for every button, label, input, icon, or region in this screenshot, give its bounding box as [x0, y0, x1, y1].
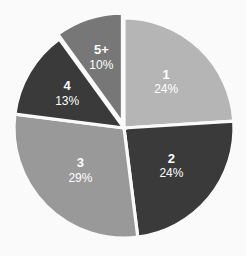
- pie-slices-group: [14, 13, 234, 238]
- pie-slice-value-3: 29%: [68, 171, 92, 185]
- pie-chart-svg: 124%224%329%413%5+10%: [0, 0, 246, 256]
- pie-slice-label-2: 2: [168, 151, 175, 166]
- pie-slice-1[interactable]: [124, 18, 234, 128]
- pie-slice-value-2: 24%: [159, 166, 183, 180]
- pie-slice-label-4: 4: [64, 78, 72, 93]
- pie-chart-figure: 124%224%329%413%5+10%: [0, 0, 246, 256]
- pie-slice-label-1: 1: [163, 67, 170, 82]
- pie-slice-label-3: 3: [77, 155, 84, 170]
- pie-slice-label-5plus: 5+: [94, 42, 109, 57]
- pie-slice-value-1: 24%: [154, 82, 178, 96]
- pie-slice-value-5plus: 10%: [89, 58, 113, 72]
- pie-slice-value-4: 13%: [55, 94, 79, 108]
